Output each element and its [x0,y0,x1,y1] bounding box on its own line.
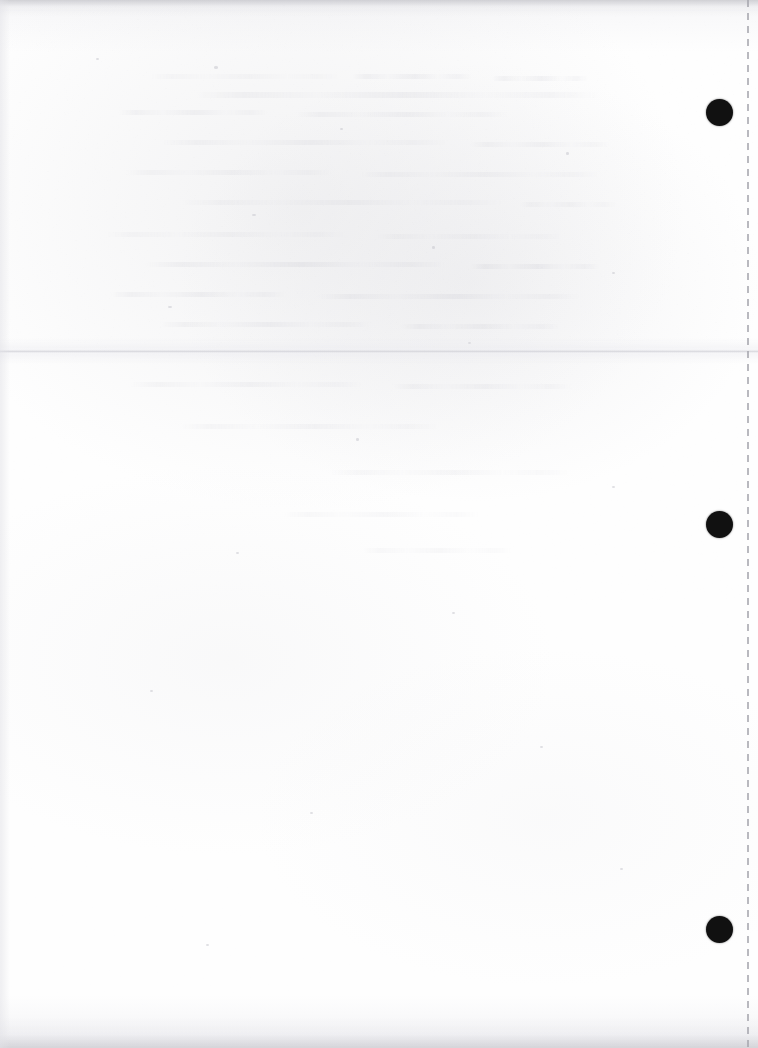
punch-dot-middle [706,511,733,538]
punch-dot-top [706,99,733,126]
punch-dot-bottom [706,916,733,943]
paper-sheet [0,0,758,1048]
scanned-page [0,0,758,1048]
